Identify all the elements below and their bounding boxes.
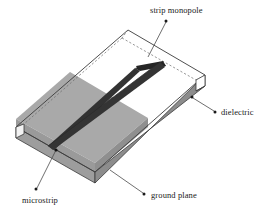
figure-container: strip monopole dielectric microstrip gro… <box>0 0 272 219</box>
label-strip-monopole: strip monopole <box>150 5 203 15</box>
leader-line-dielectric <box>193 98 214 111</box>
leader-dot-dielectric-label <box>214 111 217 114</box>
label-dielectric: dielectric <box>221 107 254 117</box>
schematic-svg: strip monopole dielectric microstrip gro… <box>0 0 272 219</box>
leader-dot-ground-plane <box>143 193 146 196</box>
label-microstrip: microstrip <box>22 195 58 205</box>
leader-dot-microstrip-label <box>35 188 38 191</box>
leader-line-ground-plane <box>110 170 143 193</box>
label-ground-plane: ground plane <box>151 190 197 200</box>
leader-dot-microstrip-body <box>54 148 57 151</box>
leader-dot-strip-monopole <box>165 20 168 23</box>
leader-dot-dielectric-body <box>191 96 194 99</box>
